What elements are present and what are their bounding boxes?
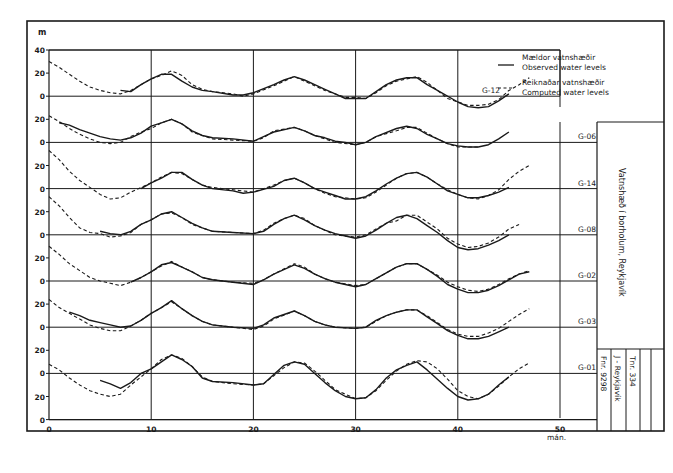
x-tick-label: 10 — [146, 425, 156, 434]
legend-computed-is: Reiknaðar vatnshæðir — [522, 78, 605, 87]
y-tick-label: 20 — [35, 162, 45, 171]
title-block-org: J - Reykjavík — [613, 355, 622, 402]
observed-curve-g-12 — [121, 74, 509, 108]
observed-curve-g-02 — [131, 263, 530, 293]
observed-curve-g-01 — [100, 355, 509, 400]
well-labels: G-12G-06G-14G-08G-02G-03G-01 — [482, 86, 596, 372]
y-tick-label: 0 — [40, 369, 45, 378]
chart-figure: 4020020020020020020020020001020304050 G-… — [0, 0, 673, 473]
computed-curve-g-03 — [49, 300, 529, 337]
y-tick-label: 20 — [35, 346, 45, 355]
observed-curve-g-08 — [100, 212, 509, 250]
well-curves — [49, 62, 529, 400]
y-tick-label: 0 — [40, 231, 45, 240]
x-tick-label: 30 — [350, 425, 360, 434]
y-tick-label: 20 — [35, 393, 45, 402]
y-tick-label: 40 — [35, 46, 45, 55]
x-unit-label: mán. — [547, 433, 566, 442]
well-label-g-03: G-03 — [578, 317, 596, 326]
y-tick-label: 0 — [40, 92, 45, 101]
legend: Mældor vatnshæðir Observed water levels … — [498, 53, 609, 97]
legend-observed-en: Observed water levels — [522, 63, 606, 72]
legend-observed-is: Mældor vatnshæðir — [522, 53, 596, 62]
y-tick-label: 20 — [35, 69, 45, 78]
well-label-g-14: G-14 — [578, 179, 596, 188]
computed-curve-g-08 — [49, 197, 519, 248]
computed-curve-g-14 — [49, 151, 529, 200]
y-tick-label: 20 — [35, 254, 45, 263]
plot-grid — [49, 50, 597, 420]
well-label-g-08: G-08 — [578, 225, 596, 234]
y-tick-label: 20 — [35, 300, 45, 309]
x-tick-label: 20 — [248, 425, 258, 434]
legend-computed-en: Computed water levels — [522, 88, 609, 97]
title-block-fnr: Fnr. 9298 — [599, 356, 608, 392]
computed-curve-g-02 — [49, 246, 529, 291]
well-label-g-06: G-06 — [578, 132, 596, 141]
x-tick-label: 40 — [453, 425, 463, 434]
title-block-tnr: Tnr. 334 — [628, 355, 637, 387]
y-unit-label: m — [38, 28, 46, 37]
well-label-g-01: G-01 — [578, 363, 596, 372]
y-tick-label: 20 — [35, 115, 45, 124]
axes: 4020020020020020020020020001020304050 — [35, 46, 566, 434]
y-tick-label: 20 — [35, 208, 45, 217]
y-tick-label: 0 — [40, 277, 45, 286]
x-tick-label: 0 — [46, 425, 51, 434]
well-label-g-02: G-02 — [578, 271, 596, 280]
y-tick-label: 0 — [40, 416, 45, 425]
y-tick-label: 0 — [40, 323, 45, 332]
y-tick-label: 0 — [40, 138, 45, 147]
y-tick-label: 0 — [40, 185, 45, 194]
computed-curve-g-01 — [49, 355, 529, 399]
well-label-g-12: G-12 — [482, 86, 500, 95]
computed-curve-g-12 — [49, 62, 529, 106]
observed-curve-g-14 — [141, 172, 509, 199]
observed-curve-g-03 — [69, 301, 509, 339]
chart-title: Vatnshæð í borholum, Reykjavík — [617, 168, 626, 297]
